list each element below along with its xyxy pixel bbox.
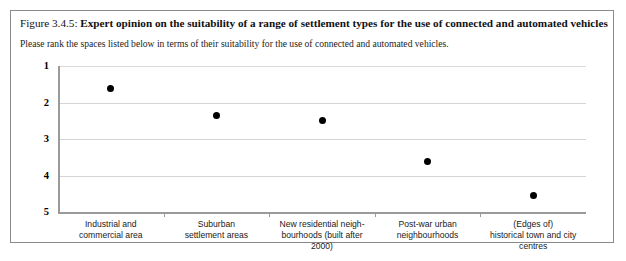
x-axis-category-line: centres xyxy=(480,241,586,252)
x-axis-tick-1 xyxy=(164,212,165,217)
data-point xyxy=(107,85,114,92)
scatter-chart: Industrial andcommercial areaSuburbanset… xyxy=(11,49,615,244)
x-axis-tick-2 xyxy=(269,212,270,217)
x-axis-category-line: historical town and city xyxy=(480,230,586,241)
y-axis-tick-2: 2 xyxy=(11,98,49,108)
figure-container: Figure 3.4.5: Expert opinion on the suit… xyxy=(10,10,614,243)
x-axis-category-line: 2000) xyxy=(269,241,375,252)
gridline-1 xyxy=(58,66,586,67)
data-point xyxy=(213,112,220,119)
x-axis-category-line: neighbourhoods xyxy=(375,230,481,241)
x-axis-tick-3 xyxy=(375,212,376,217)
data-point xyxy=(530,192,537,199)
gridline-4 xyxy=(58,176,586,177)
figure-title-text: Expert opinion on the suitability of a r… xyxy=(80,17,607,29)
x-axis-category-line: Industrial and xyxy=(58,219,164,230)
x-axis-category-line: bourhoods (built after xyxy=(269,230,375,241)
x-axis-category-label: (Edges of)historical town and citycentre… xyxy=(480,219,586,252)
gridline-5 xyxy=(58,212,586,214)
plot-area xyxy=(58,66,586,212)
x-axis-tick-4 xyxy=(480,212,481,217)
x-axis-category-label: New residential neigh-bourhoods (built a… xyxy=(269,219,375,252)
y-axis-tick-1: 1 xyxy=(11,61,49,71)
y-axis-tick-3: 3 xyxy=(11,134,49,144)
x-axis-category-line: commercial area xyxy=(58,230,164,241)
y-axis-line xyxy=(58,66,60,213)
gridline-3 xyxy=(58,139,586,140)
x-axis-category-line: Post-war urban xyxy=(375,219,481,230)
x-axis-category-label: Industrial andcommercial area xyxy=(58,219,164,241)
data-point xyxy=(424,158,431,165)
x-axis-labels: Industrial andcommercial areaSuburbanset… xyxy=(58,219,586,261)
x-axis-category-line: New residential neigh- xyxy=(269,219,375,230)
x-axis-category-label: Post-war urbanneighbourhoods xyxy=(375,219,481,241)
x-axis-category-label: Suburbansettlement areas xyxy=(164,219,270,241)
x-axis-category-line: (Edges of) xyxy=(480,219,586,230)
x-axis-category-line: Suburban xyxy=(164,219,270,230)
figure-title: Figure 3.4.5: Expert opinion on the suit… xyxy=(20,16,605,30)
gridline-2 xyxy=(58,103,586,104)
x-axis-category-line: settlement areas xyxy=(164,230,270,241)
data-point xyxy=(319,117,326,124)
y-axis-tick-4: 4 xyxy=(11,171,49,181)
y-axis-tick-5: 5 xyxy=(11,207,49,217)
figure-number: Figure 3.4.5: xyxy=(20,17,78,29)
